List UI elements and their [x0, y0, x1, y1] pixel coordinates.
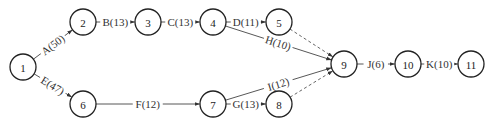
edge-d: D(11): [226, 16, 266, 29]
node-8: 8: [266, 91, 292, 117]
node-4: 4: [200, 9, 226, 35]
edge-b: B(13): [96, 16, 135, 29]
node-label: 7: [210, 99, 216, 111]
node-label: 11: [466, 59, 477, 71]
dummy-edge-8-9: [290, 71, 332, 97]
node-label: 10: [403, 59, 415, 71]
edge-label: B(13): [102, 16, 128, 29]
node-3: 3: [135, 9, 161, 35]
node-5: 5: [266, 9, 292, 35]
dummy-edge-5-9: [290, 29, 333, 57]
edge-label: D(11): [233, 16, 259, 29]
node-label: 1: [20, 62, 26, 74]
node-label: 8: [276, 99, 282, 111]
arrow-line: [290, 29, 333, 57]
edge-e: E(47): [34, 72, 71, 99]
node-6: 6: [70, 91, 96, 117]
node-1: 1: [10, 54, 36, 80]
edge-label: H(10): [264, 33, 293, 54]
node-11: 11: [458, 51, 484, 77]
edge-c: C(13): [161, 16, 200, 29]
node-label: 5: [276, 17, 282, 29]
edge-label: K(10): [426, 58, 453, 71]
node-label: 4: [210, 17, 216, 29]
node-label: 9: [341, 59, 347, 71]
node-7: 7: [200, 91, 226, 117]
edge-label: C(13): [167, 16, 193, 29]
network-diagram: A(50)B(13)C(13)D(11)E(47)F(12)G(13)H(10)…: [0, 0, 494, 135]
edge-label: J(6): [367, 58, 384, 71]
edge-j: J(6): [357, 58, 395, 71]
node-label: 3: [145, 17, 151, 29]
node-label: 2: [80, 17, 86, 29]
node-2: 2: [70, 9, 96, 35]
node-9: 9: [331, 51, 357, 77]
node-label: 6: [80, 99, 86, 111]
edge-label: G(13): [233, 98, 260, 111]
edge-a: A(50): [33, 30, 72, 59]
edge-k: K(10): [421, 58, 458, 71]
node-10: 10: [395, 51, 421, 77]
edge-f: F(12): [96, 98, 200, 111]
edge-label: F(12): [136, 98, 161, 111]
edge-g: G(13): [226, 98, 266, 111]
arrow-line: [290, 71, 332, 97]
edges-layer: A(50)B(13)C(13)D(11)E(47)F(12)G(13)H(10)…: [33, 16, 457, 111]
